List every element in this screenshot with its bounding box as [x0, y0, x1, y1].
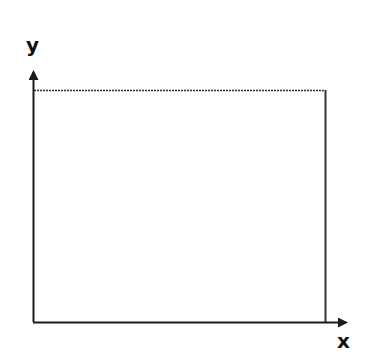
- x-axis-label: x: [337, 329, 350, 353]
- axes-diagram: y x: [0, 0, 371, 357]
- y-axis-label: y: [26, 33, 39, 57]
